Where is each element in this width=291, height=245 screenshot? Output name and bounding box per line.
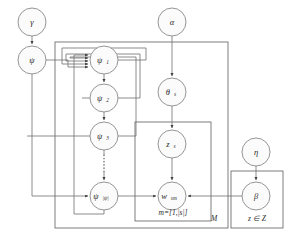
edges-group xyxy=(27,36,256,214)
plate-diagram-svg: γ ψ α ψ 1 xyxy=(0,0,291,245)
node-theta[interactable]: θ s xyxy=(158,78,186,106)
svg-text:η: η xyxy=(254,146,258,156)
node-z-label: z xyxy=(165,138,170,148)
node-psi2-subscript: 2 xyxy=(106,97,109,103)
node-alpha[interactable]: α xyxy=(158,8,186,36)
node-psi[interactable]: ψ xyxy=(18,46,46,74)
node-w[interactable]: w sm xyxy=(158,182,186,210)
node-psi-last[interactable]: ψ |ψ| xyxy=(90,182,118,210)
outer-plate-M xyxy=(55,42,228,228)
node-psi2-label: ψ xyxy=(97,92,103,102)
svg-text:ψ: ψ xyxy=(29,54,35,64)
svg-text:β: β xyxy=(253,190,259,200)
node-psi3-subscript: 3 xyxy=(105,135,109,141)
svg-text:α: α xyxy=(170,16,175,26)
node-theta-subscript: s xyxy=(174,91,176,97)
node-eta[interactable]: η xyxy=(242,138,270,166)
node-theta-label: θ xyxy=(166,86,170,96)
node-psi1-label: ψ xyxy=(97,54,103,64)
node-w-subscript: sm xyxy=(171,195,177,201)
node-psi2[interactable]: ψ 2 xyxy=(90,84,118,112)
node-psi1[interactable]: ψ 1 xyxy=(90,46,118,74)
node-beta-label: β xyxy=(253,190,259,200)
node-eta-label: η xyxy=(254,146,258,156)
node-alpha-label: α xyxy=(170,16,175,26)
plate-labels-group: m=[1,|s|] M z ∈ Z xyxy=(159,208,267,223)
inner-plate-m-label: m=[1,|s|] xyxy=(159,208,188,217)
node-z[interactable]: z s xyxy=(158,130,186,158)
node-psi-last-subscript: |ψ| xyxy=(102,195,108,201)
node-psi-last-label: ψ xyxy=(93,190,99,200)
node-psi-label: ψ xyxy=(29,54,35,64)
node-psi3-label: ψ xyxy=(97,130,103,140)
node-z-subscript: s xyxy=(174,143,176,149)
outer-plate-M-label: M xyxy=(210,214,218,223)
node-w-label: w xyxy=(161,190,167,200)
diagram-canvas: γ ψ α ψ 1 xyxy=(0,0,291,245)
node-beta[interactable]: β xyxy=(242,182,270,210)
node-gamma[interactable]: γ xyxy=(18,8,46,36)
node-psi3[interactable]: ψ 3 xyxy=(90,122,118,150)
node-psi1-subscript: 1 xyxy=(106,59,109,65)
edge-psi-to-psiN xyxy=(32,74,88,196)
nodes-group: γ ψ α ψ 1 xyxy=(18,8,270,210)
plate-z-in-Z-label: z ∈ Z xyxy=(247,214,267,223)
